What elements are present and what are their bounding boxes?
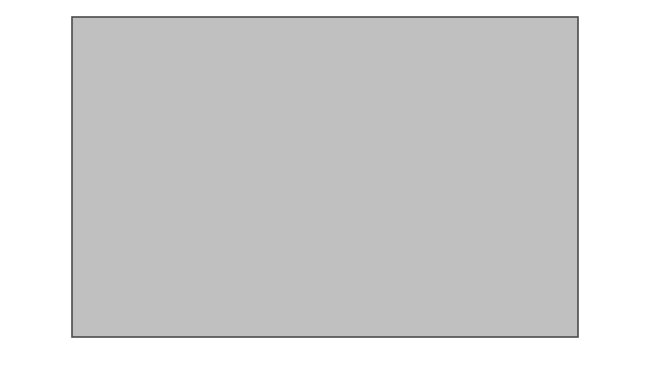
price-trends-line-chart xyxy=(0,0,651,383)
plot-area-background xyxy=(72,17,578,337)
chart-figure xyxy=(0,0,651,383)
